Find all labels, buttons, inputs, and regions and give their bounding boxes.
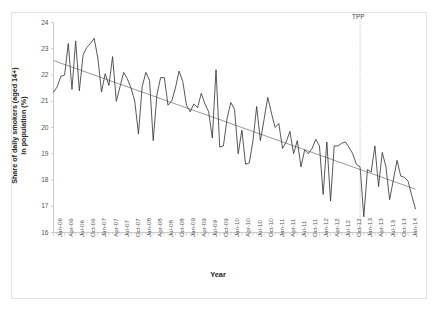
- tick-marks-layer: [51, 23, 416, 236]
- x-tick-label: Oct-09: [222, 218, 229, 237]
- y-tick-label: 24: [35, 19, 49, 26]
- x-tick-label: Apr-13: [377, 218, 384, 237]
- x-tick-label: Apr-12: [333, 218, 340, 237]
- trendline: [54, 61, 416, 190]
- y-tick-label: 17: [35, 202, 49, 209]
- x-tick-label: Jan-11: [278, 219, 285, 237]
- x-tick-label: Oct-06: [89, 218, 96, 237]
- x-tick-label: Oct-11: [311, 219, 318, 237]
- y-tick-label: 22: [35, 71, 49, 78]
- x-tick-label: Jan-14: [411, 218, 418, 237]
- x-tick-label: Apr-11: [289, 219, 296, 237]
- x-tick-label: Apr-06: [67, 218, 74, 237]
- x-tick-label: Jul-10: [256, 220, 263, 237]
- figure-container: Share of daily smokers (aged 14+) in pop…: [0, 0, 436, 314]
- x-tick-label: Jul-12: [344, 220, 351, 237]
- data-series-line: [54, 38, 416, 217]
- data-series-layer: [54, 38, 416, 217]
- x-tick-label: Jan-07: [100, 218, 107, 237]
- x-tick-label: Jul-08: [167, 220, 174, 237]
- x-tick-label: Jan-10: [233, 218, 240, 237]
- tpp-annotation-label: TPP: [352, 13, 364, 20]
- line-chart-plot: [0, 0, 436, 314]
- x-tick-label: Jan-13: [366, 218, 373, 237]
- y-tick-label: 19: [35, 150, 49, 157]
- trendline-layer: [54, 61, 416, 190]
- y-tick-label: 18: [35, 176, 49, 183]
- y-tick-label: 16: [35, 229, 49, 236]
- x-tick-label: Apr-10: [244, 218, 251, 237]
- y-tick-label: 20: [35, 124, 49, 131]
- x-tick-label: Apr-08: [156, 218, 163, 237]
- x-tick-label: Oct-07: [134, 218, 141, 237]
- x-tick-label: Jul-13: [389, 220, 396, 237]
- x-tick-label: Jan-06: [56, 218, 63, 237]
- x-tick-label: Oct-10: [267, 218, 274, 237]
- x-tick-label: Jan-09: [189, 218, 196, 237]
- x-tick-label: Apr-09: [200, 218, 207, 237]
- x-tick-label: Jul-09: [211, 220, 218, 237]
- y-tick-label: 23: [35, 45, 49, 52]
- x-tick-label: Oct-13: [400, 218, 407, 237]
- x-tick-label: Jan-08: [145, 218, 152, 237]
- x-tick-label: Jul-07: [123, 220, 130, 237]
- x-tick-label: Jul-06: [78, 220, 85, 237]
- x-tick-label: Oct-08: [178, 218, 185, 237]
- y-tick-label: 21: [35, 97, 49, 104]
- x-tick-label: Apr-07: [112, 218, 119, 237]
- x-tick-label: Jul-11: [300, 221, 307, 237]
- x-tick-label: Oct-12: [355, 218, 362, 237]
- axis-layer: [54, 23, 416, 233]
- x-tick-label: Jan-12: [322, 218, 329, 237]
